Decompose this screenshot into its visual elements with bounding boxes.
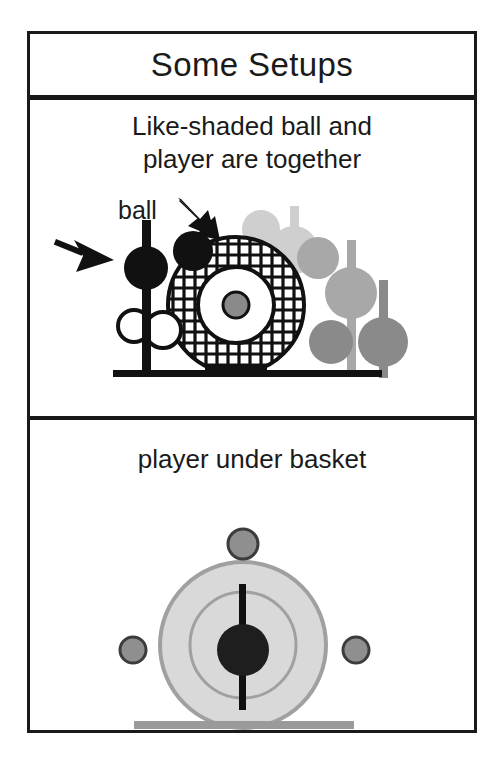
floor-line (134, 721, 354, 729)
scene-top-svg (30, 178, 474, 393)
player-ball-marker (124, 246, 168, 290)
ball-top (228, 529, 258, 559)
floor-line (113, 370, 382, 377)
figure-title: Some Setups (151, 48, 354, 81)
scene-top-art (30, 178, 474, 393)
player-black (124, 220, 168, 374)
player-ball-marker (217, 624, 269, 676)
player-ball-marker (358, 317, 408, 367)
figure-frame: Some Setups Like-shaded ball and player … (27, 31, 477, 733)
ball-right (343, 637, 369, 663)
scene-bottom-art (30, 478, 474, 738)
figure-page: Some Setups Like-shaded ball and player … (0, 0, 503, 769)
ball-annotation-label: ball (118, 196, 157, 225)
ball-darkgray (309, 320, 353, 364)
player-ball-marker (325, 267, 377, 319)
caption-line-2: player are together (30, 143, 474, 176)
ball-left (120, 637, 146, 663)
panel-like-shaded: Like-shaded ball and player are together (30, 100, 474, 420)
panel-player-under-basket: player under basket (30, 420, 474, 730)
panel-one-caption: Like-shaded ball and player are together (30, 100, 474, 177)
ball-midgray (297, 237, 339, 279)
title-band: Some Setups (30, 34, 474, 100)
scene-bottom-svg (30, 478, 474, 738)
arrow-to-player-icon (54, 239, 114, 272)
panel-two-caption: player under basket (30, 420, 474, 475)
basket-hub (223, 292, 249, 318)
caption-line-1: Like-shaded ball and (132, 111, 372, 141)
player-bar (142, 220, 151, 374)
